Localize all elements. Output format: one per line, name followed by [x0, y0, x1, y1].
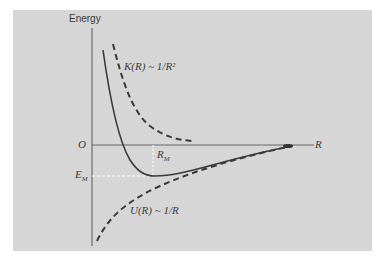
- r-m-sub: M: [164, 155, 170, 163]
- energy-diagram: [0, 0, 382, 258]
- potential-energy-label: U(R) ~ 1/R: [130, 204, 179, 216]
- e-m-sub: M: [82, 175, 88, 183]
- potential-energy-curve: [97, 146, 292, 241]
- y-axis-label: Energy: [69, 13, 101, 24]
- kinetic-energy-curve: [113, 44, 192, 141]
- e-m-main: E: [75, 168, 82, 180]
- convergence-point: [283, 144, 293, 148]
- x-axis-label: R: [315, 138, 322, 150]
- origin-label: O: [78, 138, 86, 150]
- kinetic-energy-label: K(R) ~ 1/R²: [124, 60, 175, 72]
- r-m-main: R: [157, 148, 164, 160]
- r-m-label: RM: [157, 148, 170, 163]
- e-m-label: EM: [75, 168, 88, 183]
